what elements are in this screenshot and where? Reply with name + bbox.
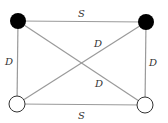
label-edge-right: D — [148, 57, 157, 68]
label-edge-bottom: S — [78, 110, 85, 121]
node-bottom-left — [9, 96, 25, 112]
label-edge-diagonal-up: D — [93, 38, 102, 49]
label-edge-left: D — [4, 56, 13, 67]
edge-bottom — [17, 104, 145, 105]
edge-left — [17, 21, 18, 104]
edge-top — [18, 21, 146, 22]
label-edge-diagonal-down: D — [94, 78, 103, 89]
node-bottom-right — [137, 97, 153, 113]
node-top-left — [10, 13, 26, 29]
graph-diagram: S S D D D D — [0, 0, 168, 123]
edge-right — [145, 22, 146, 105]
label-edge-top: S — [78, 8, 85, 19]
node-top-right — [138, 14, 154, 30]
edge-diagonal-down — [18, 21, 145, 105]
